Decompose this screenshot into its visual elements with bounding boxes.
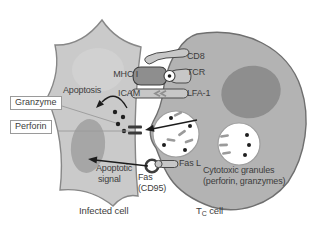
granzyme-dot [243,153,247,157]
mhc1-molecule [133,67,167,85]
fas-cd95-label: Fas (CD95) [138,172,166,193]
apoptotic-signal-line1: Apoptotic [96,163,132,174]
granzyme-dot [169,116,173,120]
perforin-label: Perforin [15,121,47,131]
cytotoxic-granule-fusing [153,111,199,157]
fasl-label: Fas L [179,158,201,169]
tc-cell-label: TC cell [196,206,223,220]
granzyme-dot [245,133,249,137]
perforin-rod [219,143,228,146]
apoptosis-label: Apoptosis [63,85,101,96]
granzyme-label-box: Granzyme [10,96,62,110]
apoptotic-signal-line2: signal [98,174,132,185]
immunology-diagram: CD8 TCR LFA-1 MHC I ICAM Fas L Fas (CD95… [0,0,315,231]
apoptotic-signal-label: Apoptotic signal [96,163,132,184]
perforin-label-box: Perforin [10,120,52,134]
granzyme-dot [121,115,125,119]
cytotoxic-granules-line2: (perforin, granzymes) [203,176,285,187]
granzyme-dot [188,124,192,128]
fas-label-line2: (CD95) [138,183,166,194]
cd8-label: CD8 [187,51,205,62]
tcr-label: TCR [187,67,205,78]
cytotoxic-granules-label: Cytotoxic granules (perforin, granzymes) [203,165,285,186]
granzyme-dot [116,122,120,126]
antigen-peptide-dot [168,74,172,78]
granzyme-label: Granzyme [15,97,57,107]
granzyme-dot [162,143,166,147]
lfa1-label: LFA-1 [187,88,210,99]
icam-label: ICAM [102,88,140,99]
infected-cell-label: Infected cell [79,206,128,217]
cytotoxic-granules-line1: Cytotoxic granules [203,165,285,176]
tc-cell-label-cell: cell [207,205,223,216]
granzyme-dot [113,110,117,114]
diagram-canvas [0,0,315,231]
fasl-tip [155,160,162,167]
granzyme-dot [247,143,251,147]
fas-label-line1: Fas [138,172,166,183]
granzyme-dot [183,148,187,152]
mhc1-label: MHC I [100,69,138,80]
